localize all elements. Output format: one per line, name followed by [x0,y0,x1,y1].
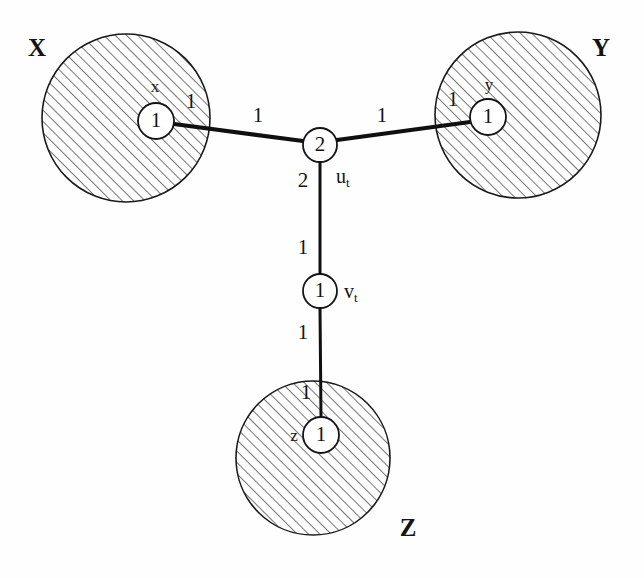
node-x-name: x [151,77,160,96]
node-y-name: y [485,75,494,94]
cluster-y-label: Y [592,34,610,61]
node-y-value: 1 [483,104,494,128]
node-x-value: 1 [151,108,162,132]
cluster-x: X [28,34,210,202]
cluster-x-region [42,34,210,202]
edge-v-z-weight-target: 1 [301,380,312,404]
cluster-z-label: Z [400,514,417,541]
node-u-t-label: ut [336,165,350,190]
node-z-name: z [290,426,298,445]
node-u-t-label-subscript: t [346,175,350,190]
node-v-t-value: 1 [315,278,326,302]
edge-x-u-weight-source: 1 [186,89,197,113]
edge-u-v-weight-source: 2 [298,168,309,192]
cluster-x-label: X [28,34,46,61]
edge-u-y-weight-source: 1 [377,103,388,127]
node-u-t-label-base: u [336,165,346,187]
node-z-value: 1 [316,422,327,446]
cluster-y-region [435,32,601,198]
cluster-z: Z [236,381,416,541]
graph-canvas: X Y Z 1 1 1 1 2 1 1 [0,0,644,578]
edge-x-u-weight-target: 1 [253,103,264,127]
edge-u-y-weight-target: 1 [448,87,459,111]
graph-figure: X Y Z 1 1 1 1 2 1 1 [0,0,644,578]
edge-u-v-weight-target: 1 [298,235,309,259]
node-v-t-label-base: v [344,280,354,302]
node-v-t-label: vt [344,280,358,305]
edge-v-z-weight-source: 1 [298,320,309,344]
cluster-y: Y [435,32,610,198]
edge-u-v: 2 1 [298,162,320,274]
node-u-t-value: 2 [315,132,326,156]
node-v-t-label-subscript: t [354,290,358,305]
edge-v-z-line [320,308,321,417]
cluster-z-region [236,381,390,535]
node-v-t[interactable]: 1 vt [303,274,358,308]
